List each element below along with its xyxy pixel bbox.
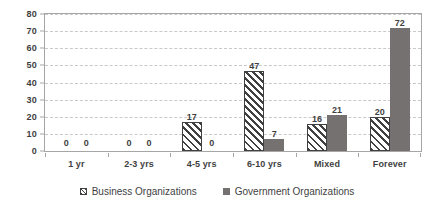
bar-slot: 0 xyxy=(76,14,96,151)
bar-slot: 20 xyxy=(370,14,390,151)
bar-slot: 0 xyxy=(202,14,222,151)
y-axis-tick-label: 20 xyxy=(27,112,37,122)
bar-value-label: 21 xyxy=(332,106,342,115)
bar: 72 xyxy=(390,28,410,151)
bar-slot: 72 xyxy=(390,14,410,151)
bar: 47 xyxy=(244,71,264,151)
bar: 21 xyxy=(327,115,347,151)
bar: 7 xyxy=(264,139,284,151)
bar-slot: 7 xyxy=(264,14,284,151)
bar: 20 xyxy=(370,117,390,151)
legend-label: Business Organizations xyxy=(92,186,197,197)
bar-slot: 21 xyxy=(327,14,347,151)
x-axis-tick-label: 6-10 yrs xyxy=(233,153,296,173)
bar-value-label: 0 xyxy=(84,139,89,148)
legend-swatch-hatched-icon xyxy=(80,188,87,195)
bar-value-label: 72 xyxy=(395,19,405,28)
bar-value-label: 0 xyxy=(64,139,69,148)
bar-slot: 16 xyxy=(307,14,327,151)
bar-value-label: 0 xyxy=(209,139,214,148)
bar-group: 2072 xyxy=(358,14,421,151)
y-axis-tick-label: 40 xyxy=(27,78,37,88)
bar-slot: 0 xyxy=(139,14,159,151)
legend-label: Government Organizations xyxy=(235,186,355,197)
bar: 16 xyxy=(307,124,327,151)
y-axis-tick-label: 30 xyxy=(27,95,37,105)
bar-group: 1621 xyxy=(296,14,359,151)
y-axis-tick-label: 60 xyxy=(27,43,37,53)
legend-item[interactable]: Government Organizations xyxy=(223,186,355,197)
x-axis: 1 yr2-3 yrs4-5 yrs6-10 yrsMixedForever xyxy=(45,153,421,173)
y-axis-tick-label: 10 xyxy=(27,129,37,139)
bar-value-label: 0 xyxy=(126,139,131,148)
bar-value-label: 0 xyxy=(146,139,151,148)
bar-group: 477 xyxy=(233,14,296,151)
bar-value-label: 7 xyxy=(272,130,277,139)
x-axis-tick-label: 1 yr xyxy=(45,153,108,173)
bar-group: 170 xyxy=(170,14,233,151)
bar-slot: 47 xyxy=(244,14,264,151)
y-axis-tick-label: 0 xyxy=(32,146,37,156)
bar-value-label: 20 xyxy=(375,108,385,117)
x-axis-tick-label: 4-5 yrs xyxy=(170,153,233,173)
y-axis: 80706050403020100 xyxy=(0,13,44,152)
bar-chart: 80706050403020100 000017047716212072 1 y… xyxy=(0,0,434,208)
chart-legend: Business OrganizationsGovernment Organiz… xyxy=(0,181,434,201)
bar: 17 xyxy=(182,122,202,151)
bar-group: 00 xyxy=(108,14,171,151)
bar-slot: 17 xyxy=(182,14,202,151)
legend-item[interactable]: Business Organizations xyxy=(80,186,197,197)
bar-value-label: 16 xyxy=(312,115,322,124)
x-axis-tick-label: Forever xyxy=(358,153,421,173)
bar-slot: 0 xyxy=(119,14,139,151)
x-axis-tick-label: Mixed xyxy=(296,153,359,173)
bar-value-label: 47 xyxy=(249,62,259,71)
bar-groups: 000017047716212072 xyxy=(45,14,421,151)
bar-slot: 0 xyxy=(56,14,76,151)
y-axis-tick-label: 80 xyxy=(27,9,37,19)
bar-value-label: 17 xyxy=(187,113,197,122)
axis-baseline xyxy=(45,151,421,152)
x-axis-tick-label: 2-3 yrs xyxy=(108,153,171,173)
y-axis-tick-label: 70 xyxy=(27,26,37,36)
y-axis-tick-label: 50 xyxy=(27,60,37,70)
bar-group: 00 xyxy=(45,14,108,151)
legend-swatch-solid-icon xyxy=(223,188,230,195)
